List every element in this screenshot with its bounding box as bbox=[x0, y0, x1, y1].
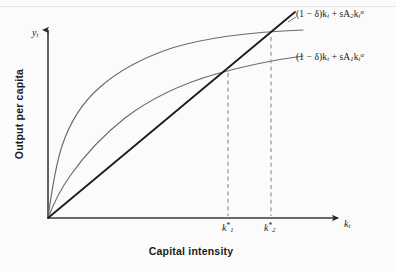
y-axis-variable-sub: t bbox=[36, 31, 38, 38]
curve-label-A1-mid: + sA bbox=[329, 52, 350, 62]
transition-curve-A1 bbox=[48, 56, 303, 218]
x-axis-variable-sub: t bbox=[348, 222, 350, 229]
x-axis-title: Capital intensity bbox=[96, 245, 286, 257]
tick-label-k1-star: k*1 bbox=[222, 221, 234, 233]
curve-label-A2-mid: + sA bbox=[329, 9, 350, 19]
plot-canvas bbox=[0, 0, 396, 271]
x-axis-variable: kt bbox=[344, 218, 350, 229]
curve-label-A1-prefix: (1 − δ)k bbox=[296, 52, 327, 62]
curve-label-A2-prefix: (1 − δ)k bbox=[296, 9, 327, 19]
forty-five-degree-line bbox=[48, 12, 295, 218]
curve-label-A2-tail-sup: α bbox=[361, 8, 365, 15]
tick-k2-sub: 2 bbox=[272, 226, 275, 233]
y-axis-title: Output per capita bbox=[13, 49, 25, 179]
curve-label-A1-tail-sup: α bbox=[361, 51, 365, 58]
tick-k1-sub: 1 bbox=[230, 226, 233, 233]
curve-label-A2: (1 − δ)kt + sA2ktα bbox=[296, 8, 364, 19]
solow-growth-diagram: Output per capita Capital intensity yt k… bbox=[0, 0, 396, 271]
tick-label-k2-star: k*2 bbox=[264, 221, 276, 233]
y-axis-variable: yt bbox=[32, 27, 38, 38]
transition-curve-A2 bbox=[48, 30, 303, 218]
curve-label-A1: (1 − δ)kt + sA1ktα bbox=[296, 51, 364, 62]
